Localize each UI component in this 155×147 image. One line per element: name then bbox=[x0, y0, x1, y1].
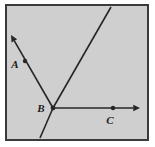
point-label-b: B bbox=[36, 102, 44, 114]
figure-canvas: ABC bbox=[0, 0, 155, 147]
point-dot-c bbox=[111, 106, 115, 110]
point-dot-a bbox=[23, 59, 27, 63]
point-label-a: A bbox=[10, 58, 18, 70]
figure-frame bbox=[6, 5, 148, 140]
point-label-c: C bbox=[106, 114, 114, 126]
point-dot-b bbox=[51, 106, 56, 111]
geometry-figure: ABC bbox=[0, 0, 155, 147]
